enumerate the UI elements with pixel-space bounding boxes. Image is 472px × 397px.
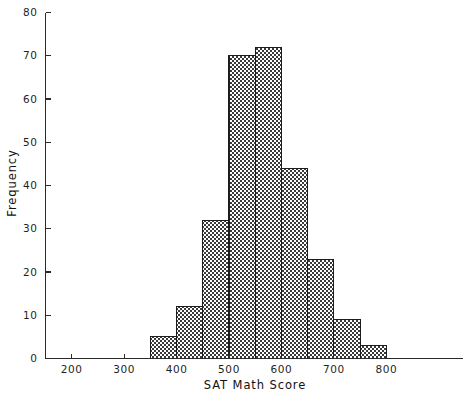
y-axis-tick-label: 10: [23, 309, 38, 321]
y-axis-tick-label: 70: [23, 49, 38, 61]
x-axis-tick-label: 800: [375, 363, 397, 375]
y-axis-tick-label: 30: [23, 222, 38, 234]
y-axis-tick-label: 20: [23, 266, 38, 278]
chart-canvas: 01020304050607080 200300400500600700800 …: [0, 0, 472, 397]
x-axis-tick-label: 600: [271, 363, 293, 375]
histogram-bar: [150, 337, 176, 359]
y-axis-tick-label: 40: [23, 179, 38, 191]
x-axis-tick-label: 300: [113, 363, 135, 375]
histogram-bar: [177, 307, 203, 359]
x-axis-title: SAT Math Score: [204, 378, 306, 392]
histogram-bar: [203, 220, 229, 358]
y-axis-tick-label: 50: [23, 136, 38, 148]
histogram-bar: [281, 168, 307, 358]
y-axis-tick-label: 60: [23, 93, 38, 105]
histogram-bar: [255, 47, 281, 358]
histogram-bar: [229, 56, 255, 359]
x-axis-tick-label: 400: [166, 363, 188, 375]
histogram-bar: [334, 320, 360, 359]
y-axis-title: Frequency: [5, 149, 19, 217]
x-axis-tick-label: 500: [218, 363, 240, 375]
histogram-bar: [360, 346, 386, 359]
y-axis-tick-label: 80: [23, 6, 38, 18]
x-axis-tick-label: 700: [323, 363, 345, 375]
histogram-bar: [308, 259, 334, 358]
histogram-chart: 01020304050607080 200300400500600700800 …: [0, 0, 472, 397]
x-axis-tick-label: 200: [61, 363, 83, 375]
y-axis-tick-label: 0: [30, 352, 37, 364]
